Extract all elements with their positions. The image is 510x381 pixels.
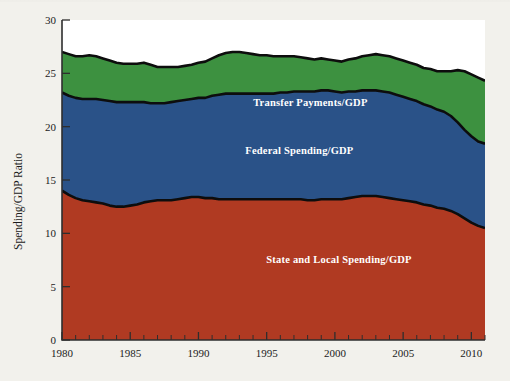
y-tick-label: 10 xyxy=(45,227,57,239)
x-tick-label: 2010 xyxy=(460,347,483,359)
x-tick-label: 2005 xyxy=(392,347,415,359)
series-label-federal-spending: Federal Spending/GDP xyxy=(245,145,354,156)
y-tick-label: 15 xyxy=(45,174,57,186)
series-label-state-local-spending: State and Local Spending/GDP xyxy=(266,254,412,265)
y-tick-label: 20 xyxy=(45,121,57,133)
y-tick-label: 30 xyxy=(45,14,57,26)
chart-svg: 051015202530 198019851990199520002005201… xyxy=(0,0,510,381)
y-axis-title: Spending/GDP Ratio xyxy=(12,153,25,250)
area-state-local-spending xyxy=(62,191,485,340)
series-label-transfer-payments: Transfer Payments/GDP xyxy=(253,97,368,108)
y-tick-label: 25 xyxy=(45,67,57,79)
series-areas xyxy=(62,52,485,340)
x-tick-label: 2000 xyxy=(324,347,347,359)
y-tick-label: 5 xyxy=(51,281,57,293)
x-tick-label: 1990 xyxy=(187,347,210,359)
x-tick-label: 1995 xyxy=(256,347,279,359)
y-tick-label: 0 xyxy=(51,334,57,346)
x-tick-label: 1985 xyxy=(119,347,142,359)
stacked-area-chart-figure: 051015202530 198019851990199520002005201… xyxy=(0,0,510,381)
x-tick-label: 1980 xyxy=(51,347,74,359)
